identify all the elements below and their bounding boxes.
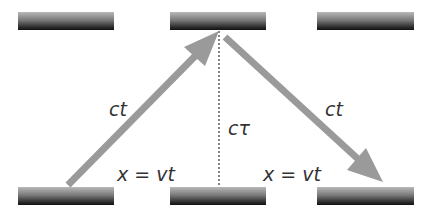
right-path-label: ct (325, 98, 343, 120)
proper-time-label: cτ (228, 117, 250, 139)
right-displacement-label: x = vt (263, 163, 321, 185)
light-path-diagram (0, 0, 437, 220)
downward-arrow (225, 37, 383, 182)
left-displacement-label: x = vt (117, 163, 175, 185)
upward-arrow (68, 31, 219, 185)
left-path-label: ct (109, 98, 127, 120)
